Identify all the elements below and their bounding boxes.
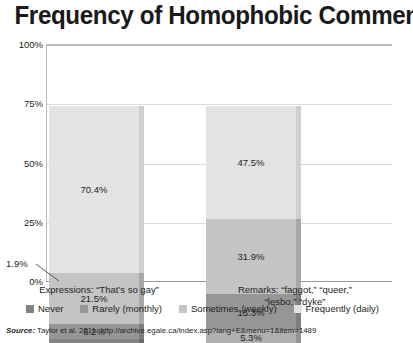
category-label-line: Remarks: “faggot,” “queer,” <box>200 284 390 296</box>
bar-segment-never[interactable]: 5.3% <box>206 330 296 343</box>
bar-segment-face <box>49 339 139 343</box>
bar-segment-side-shade <box>296 219 301 295</box>
bar-segment-value-label: 70.4% <box>49 184 139 195</box>
bar-segment-side-shade <box>139 273 144 324</box>
bar-segment-side-shade <box>139 106 144 273</box>
bar-segment-value-label: 21.5% <box>49 293 139 304</box>
y-tick-50: 50% <box>3 157 43 168</box>
bar-segment-value-label: 6.2% <box>49 326 139 337</box>
legend-swatch-icon <box>26 305 34 313</box>
legend-item-rarely-monthly[interactable]: Rarely (monthly) <box>80 304 162 314</box>
legend-label: Never <box>38 304 63 314</box>
gridline-100 <box>47 45 392 46</box>
legend-item-frequently-daily[interactable]: Frequently (daily) <box>294 304 379 314</box>
bar-segment-rarely-monthly[interactable]: 6.2% <box>49 324 139 339</box>
y-tick-25: 25% <box>3 216 43 227</box>
callout-label-1-9: 1.9% <box>6 258 28 269</box>
bar-segment-side-shade <box>296 106 301 219</box>
y-tick-75: 75% <box>3 98 43 109</box>
page-title: Frequency of Homophobic Comments <box>14 0 398 32</box>
bar-segment-value-label: 5.3% <box>206 331 296 342</box>
bar-segment-value-label: 47.5% <box>206 157 296 168</box>
callout-leader-line <box>36 264 60 282</box>
source-label: Source: <box>6 326 35 335</box>
bar-segment-frequently-daily[interactable]: 70.4% <box>49 106 139 273</box>
bar-segment-sometimes-weekly[interactable]: 21.5% <box>49 273 139 324</box>
bar-segment-frequently-daily[interactable]: 47.5% <box>206 106 296 219</box>
bar-segment-sometimes-weekly[interactable]: 31.9% <box>206 219 296 295</box>
bar-segment-never[interactable] <box>49 339 139 343</box>
legend-item-never[interactable]: Never <box>26 304 63 314</box>
bar-segment-side-shade <box>139 339 144 343</box>
legend-swatch-icon <box>80 305 88 313</box>
y-axis: 0%25%50%75%100% <box>0 44 43 281</box>
y-tick-100: 100% <box>3 39 43 50</box>
bar-segment-value-label: 15.3% <box>206 307 296 318</box>
legend-swatch-icon <box>179 305 187 313</box>
legend-label: Rarely (monthly) <box>92 304 162 314</box>
bar-remarks[interactable]: 47.5%31.9%15.3%5.3% <box>206 106 296 343</box>
bar-segment-value-label: 31.9% <box>206 251 296 262</box>
legend-label: Frequently (daily) <box>306 304 379 314</box>
